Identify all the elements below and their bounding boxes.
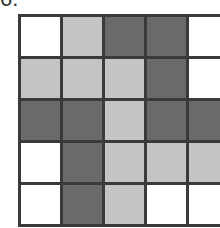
grid-cell-r3-c5	[189, 101, 220, 140]
grid-cell-r4-c5	[189, 143, 220, 182]
grid-cell-r2-c2	[63, 59, 102, 98]
grid-cell-r1-c3	[105, 17, 144, 56]
grid-cell-r2-c4	[147, 59, 186, 98]
grid-cell-r1-c1	[21, 17, 60, 56]
grid-cell-r5-c5	[189, 185, 220, 224]
grid-cell-r2-c1	[21, 59, 60, 98]
grid-cell-r3-c4	[147, 101, 186, 140]
grid-cell-r4-c1	[21, 143, 60, 182]
grid-cell-r4-c4	[147, 143, 186, 182]
grid-cell-r3-c2	[63, 101, 102, 140]
grid-cell-r5-c4	[147, 185, 186, 224]
grid-cell-r5-c1	[21, 185, 60, 224]
grid-cell-r5-c2	[63, 185, 102, 224]
grid-cell-r1-c4	[147, 17, 186, 56]
grid-cell-r1-c5	[189, 17, 220, 56]
grid-cell-r4-c3	[105, 143, 144, 182]
grid-cell-r2-c5	[189, 59, 220, 98]
color-grid	[18, 14, 220, 227]
grid-cell-r1-c2	[63, 17, 102, 56]
figure-label: 6.	[0, 0, 18, 12]
grid-cell-r5-c3	[105, 185, 144, 224]
grid-cell-r4-c2	[63, 143, 102, 182]
grid-cell-r3-c3	[105, 101, 144, 140]
grid-cell-r3-c1	[21, 101, 60, 140]
grid-cell-r2-c3	[105, 59, 144, 98]
